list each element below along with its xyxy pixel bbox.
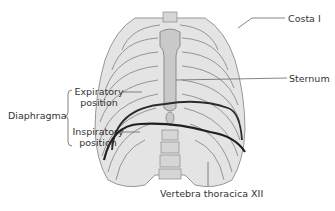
label-inspiratory-line2: position: [72, 137, 124, 148]
label-inspiratory-position: Inspiratory position: [72, 126, 124, 148]
label-costa-i: Costa I: [288, 13, 321, 24]
label-inspiratory-line1: Inspiratory: [72, 126, 124, 137]
label-expiratory-position: Expiratory position: [74, 86, 124, 108]
label-expiratory-line2: position: [74, 97, 124, 108]
label-vertebra-thoracica-xii: Vertebra thoracica XII: [160, 188, 263, 199]
label-expiratory-line1: Expiratory: [74, 86, 124, 97]
label-diaphragma: Diaphragma: [8, 110, 67, 121]
label-sternum: Sternum: [289, 73, 330, 84]
thoracic-cage-illustration: [0, 0, 335, 211]
